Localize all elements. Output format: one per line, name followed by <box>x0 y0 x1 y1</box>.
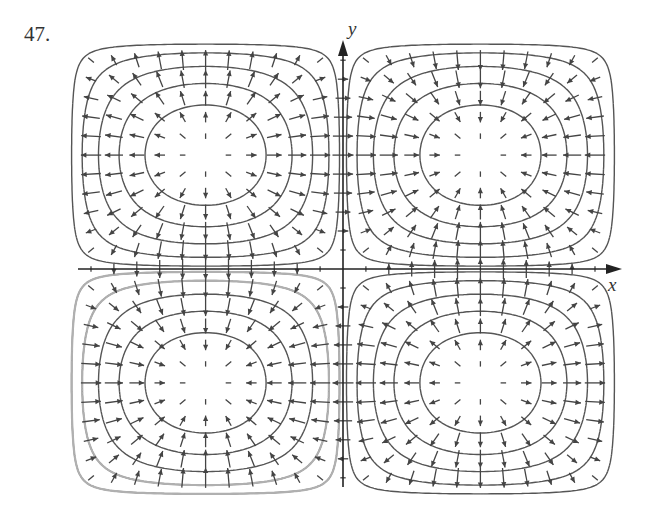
arrowhead-icon <box>392 153 398 158</box>
arrowhead-icon <box>500 205 505 211</box>
arrowhead-icon <box>138 362 144 367</box>
arrowhead-icon <box>181 433 186 439</box>
field-arrow <box>180 362 186 367</box>
arrowhead-icon <box>413 171 419 176</box>
arrowhead-icon <box>596 323 602 328</box>
field-arrow <box>317 475 323 480</box>
field-arrow <box>317 248 323 253</box>
arrowhead-icon <box>411 79 416 85</box>
arrowhead-icon <box>84 210 90 215</box>
arrowhead-icon <box>478 319 483 325</box>
arrowhead-icon <box>501 462 506 468</box>
arrowhead-icon <box>138 399 144 404</box>
field-arrow <box>180 400 186 405</box>
arrowhead-icon <box>155 153 161 158</box>
arrowhead-icon <box>334 418 340 423</box>
arrowhead-icon <box>84 95 90 100</box>
arrowhead-icon <box>545 225 550 231</box>
arrowhead-icon <box>158 469 163 475</box>
arrowhead-icon <box>414 153 420 158</box>
arrowhead-icon <box>551 400 557 405</box>
field-arrow <box>501 400 507 405</box>
arrowhead-icon <box>410 61 415 67</box>
arrowhead-icon <box>348 172 354 177</box>
arrowhead-icon <box>522 98 527 104</box>
arrowhead-icon <box>267 362 273 367</box>
field-arrow <box>501 172 507 177</box>
arrowhead-icon <box>313 437 319 442</box>
field-arrow <box>88 248 94 253</box>
arrowhead-icon <box>411 225 416 231</box>
arrowhead-icon <box>225 433 230 439</box>
arrowhead-icon <box>180 213 185 219</box>
arrowhead-icon <box>247 434 252 440</box>
arrowhead-icon <box>276 172 282 177</box>
arrowhead-icon <box>456 99 461 105</box>
arrowhead-icon <box>270 453 275 459</box>
field-arrow <box>226 172 232 177</box>
arrowhead-icon <box>521 153 527 158</box>
arrowhead-icon <box>523 63 528 69</box>
arrowhead-icon <box>105 153 111 158</box>
arrowhead-icon <box>159 326 164 332</box>
arrowhead-icon <box>454 298 459 304</box>
arrowhead-icon <box>433 63 438 69</box>
field-arrow <box>317 58 323 63</box>
arrowhead-icon <box>159 434 164 440</box>
arrowhead-icon <box>576 380 582 385</box>
arrowhead-icon <box>203 274 208 280</box>
arrowhead-icon <box>130 133 136 138</box>
arrowhead-icon <box>251 153 257 158</box>
arrowhead-icon <box>478 188 483 194</box>
arrowhead-icon <box>456 205 461 211</box>
arrowhead-icon <box>455 259 460 265</box>
arrowhead-icon <box>203 293 208 299</box>
arrowhead-icon <box>301 153 307 158</box>
arrowhead-icon <box>478 462 483 468</box>
arrowhead-icon <box>203 70 208 76</box>
arrowhead-icon <box>551 361 557 366</box>
arrowhead-icon <box>333 399 339 404</box>
arrowhead-icon <box>203 416 208 422</box>
field-arrow <box>363 58 369 63</box>
arrowhead-icon <box>367 96 373 101</box>
arrowhead-icon <box>410 243 415 249</box>
field-arrow <box>592 58 598 63</box>
arrowhead-icon <box>180 234 185 240</box>
arrowhead-icon <box>180 91 185 97</box>
arrowhead-icon <box>478 442 483 448</box>
arrowhead-icon <box>203 450 208 456</box>
arrowhead-icon <box>203 468 208 474</box>
arrowhead-icon <box>365 77 371 82</box>
y-axis-arrowhead-icon <box>338 40 348 56</box>
arrowhead-icon <box>478 240 483 246</box>
arrowhead-icon <box>478 421 483 427</box>
arrowhead-icon <box>321 210 327 215</box>
arrowhead-icon <box>542 134 548 139</box>
arrowhead-icon <box>348 153 354 158</box>
field-arrow <box>226 134 232 139</box>
field-arrow <box>88 475 94 480</box>
arrowhead-icon <box>135 289 140 295</box>
arrowhead-icon <box>478 83 483 89</box>
arrowhead-icon <box>271 289 276 295</box>
arrowhead-icon <box>313 324 319 329</box>
arrowhead-icon <box>502 319 507 325</box>
field-arrow <box>455 172 461 177</box>
arrowhead-icon <box>92 437 98 442</box>
arrowhead-icon <box>288 380 294 385</box>
arrowhead-icon <box>227 213 232 219</box>
field-arrow <box>501 134 507 139</box>
arrowhead-icon <box>502 441 507 447</box>
arrowhead-icon <box>248 469 253 475</box>
arrowhead-icon <box>478 222 483 228</box>
arrowhead-icon <box>334 342 340 347</box>
x-axis-label: x <box>608 274 616 296</box>
field-arrow <box>592 248 598 253</box>
arrowhead-icon <box>92 324 98 329</box>
arrowhead-icon <box>276 133 282 138</box>
arrowhead-icon <box>227 234 232 240</box>
field-arrow <box>226 362 232 367</box>
arrowhead-icon <box>130 172 136 177</box>
field-arrow <box>180 134 186 139</box>
